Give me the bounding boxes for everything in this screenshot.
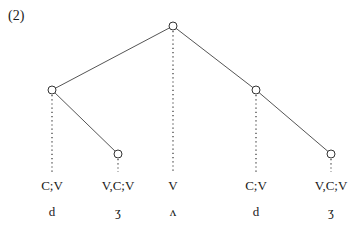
segment-label: d bbox=[49, 204, 56, 220]
edge bbox=[173, 26, 256, 90]
tree-node bbox=[114, 150, 122, 158]
tree-node bbox=[252, 86, 260, 94]
feature-label: V bbox=[168, 178, 177, 194]
feature-label: V,C;V bbox=[102, 178, 135, 194]
edge bbox=[52, 90, 118, 154]
segment-label: d bbox=[253, 204, 260, 220]
tree-node bbox=[48, 86, 56, 94]
tree-diagram bbox=[0, 0, 359, 234]
feature-label: C;V bbox=[41, 178, 63, 194]
feature-label: C;V bbox=[245, 178, 267, 194]
segment-label: ʒ bbox=[328, 204, 334, 220]
segment-label: ʒ bbox=[115, 204, 121, 220]
segment-label: ʌ bbox=[170, 204, 177, 220]
feature-label: V,C;V bbox=[315, 178, 348, 194]
tree-node bbox=[327, 150, 335, 158]
tree-node bbox=[169, 22, 177, 30]
edge bbox=[256, 90, 331, 154]
edge bbox=[52, 26, 173, 90]
